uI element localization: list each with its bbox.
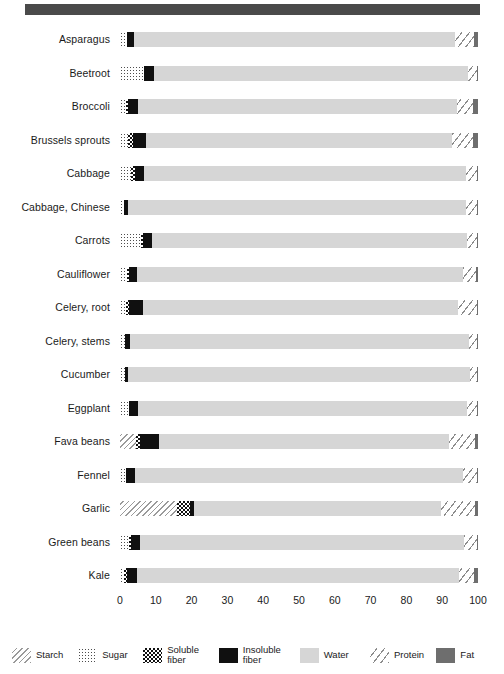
stacked-bar-chart: AsparagusBeetrootBroccoliBrussels sprout… <box>0 22 504 602</box>
bar-segment-sugar <box>120 267 127 282</box>
bar-segment-fat <box>473 133 478 148</box>
chart-row: Celery, stems <box>0 326 504 356</box>
row-label: Fennel <box>0 460 110 490</box>
bar-segment-fat <box>477 468 478 483</box>
bar-segment-protein <box>463 468 477 483</box>
bar-segment-starch <box>120 501 177 516</box>
bar-segment-insoluble <box>143 233 152 248</box>
x-axis: 0102030405060708090100 <box>120 594 478 610</box>
bar-segment-water <box>134 32 454 47</box>
chart-row: Fennel <box>0 460 504 490</box>
row-label: Brussels sprouts <box>0 125 110 155</box>
legend-item: Sugar <box>78 636 127 674</box>
bar-segment-insoluble <box>140 434 160 449</box>
chart-row: Carrots <box>0 225 504 255</box>
bar-segment-sugar <box>120 66 144 81</box>
bar-segment-sugar <box>120 32 127 47</box>
chart-row: Garlic <box>0 493 504 523</box>
bar-segment-water <box>144 166 466 181</box>
bar-track <box>120 568 478 583</box>
x-axis-tick-label: 20 <box>186 594 198 606</box>
bar-track <box>120 32 478 47</box>
bar-track <box>120 99 478 114</box>
legend-item: Water <box>300 636 349 674</box>
bar-segment-protein <box>467 233 477 248</box>
row-label: Cabbage <box>0 158 110 188</box>
x-axis-tick-label: 30 <box>222 594 234 606</box>
bar-segment-water <box>154 66 468 81</box>
bar-track <box>120 300 478 315</box>
bar-segment-fat <box>474 568 478 583</box>
row-label: Green beans <box>0 527 110 557</box>
row-label: Kale <box>0 560 110 590</box>
bar-segment-water <box>194 501 441 516</box>
bar-segment-fat <box>473 99 478 114</box>
legend-swatch <box>78 648 97 663</box>
legend-swatch <box>370 648 389 663</box>
bar-segment-insoluble <box>127 568 137 583</box>
bar-segment-soluble <box>177 501 190 516</box>
bar-segment-fat <box>477 300 478 315</box>
chart-row: Green beans <box>0 527 504 557</box>
bar-segment-insoluble <box>129 401 138 416</box>
bar-segment-protein <box>466 200 477 215</box>
x-axis-tick-label: 50 <box>293 594 305 606</box>
bar-segment-fat <box>477 200 478 215</box>
chart-row: Cabbage, Chinese <box>0 192 504 222</box>
bar-segment-sugar <box>120 535 129 550</box>
x-axis-tick-label: 80 <box>401 594 413 606</box>
legend-item: Protein <box>370 636 424 674</box>
bar-segment-water <box>143 300 458 315</box>
row-label: Garlic <box>0 493 110 523</box>
chart-row: Brussels sprouts <box>0 125 504 155</box>
legend-item: Fat <box>436 636 474 674</box>
bar-segment-water <box>138 401 467 416</box>
x-axis-tick-label: 70 <box>365 594 377 606</box>
bar-segment-insoluble <box>129 300 143 315</box>
chart-row: Broccoli <box>0 91 504 121</box>
bar-track <box>120 501 478 516</box>
bar-segment-fat <box>477 401 478 416</box>
bar-segment-sugar <box>120 233 141 248</box>
row-label: Cabbage, Chinese <box>0 192 110 222</box>
bar-track <box>120 434 478 449</box>
legend-swatch <box>143 648 162 663</box>
bar-segment-sugar <box>120 166 131 181</box>
chart-row: Kale <box>0 560 504 590</box>
legend-label: Water <box>324 650 349 661</box>
legend-label: Fat <box>460 650 474 661</box>
bar-segment-protein <box>467 401 477 416</box>
bar-track <box>120 367 478 382</box>
bar-segment-sugar <box>120 401 129 416</box>
bar-track <box>120 200 478 215</box>
x-axis-tick-label: 10 <box>150 594 162 606</box>
bar-segment-fat <box>477 334 478 349</box>
chart-row: Cabbage <box>0 158 504 188</box>
legend-swatch <box>219 648 238 663</box>
bar-segment-water <box>128 200 466 215</box>
bar-segment-insoluble <box>126 468 136 483</box>
bar-segment-protein <box>459 568 473 583</box>
x-axis-tick-label: 100 <box>469 594 487 606</box>
bar-segment-insoluble <box>127 32 135 47</box>
bar-track <box>120 334 478 349</box>
legend-label: Sugar <box>102 650 127 661</box>
bar-segment-protein <box>464 535 477 550</box>
bar-segment-water <box>138 99 458 114</box>
row-label: Asparagus <box>0 24 110 54</box>
bar-track <box>120 133 478 148</box>
chart-row: Eggplant <box>0 393 504 423</box>
chart-row: Cucumber <box>0 359 504 389</box>
legend-item: Soluble fiber <box>143 636 199 674</box>
row-label: Beetroot <box>0 58 110 88</box>
row-label: Cucumber <box>0 359 110 389</box>
row-label: Cauliflower <box>0 259 110 289</box>
bar-segment-insoluble <box>133 133 147 148</box>
chart-row: Asparagus <box>0 24 504 54</box>
x-axis-tick-label: 40 <box>257 594 269 606</box>
bar-segment-water <box>130 334 468 349</box>
bar-track <box>120 468 478 483</box>
bar-segment-insoluble <box>128 99 137 114</box>
x-axis-tick-label: 0 <box>117 594 123 606</box>
bar-track <box>120 535 478 550</box>
